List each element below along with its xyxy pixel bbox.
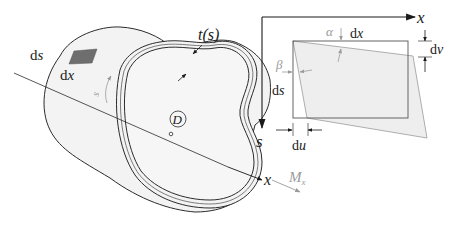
du-label: du <box>292 138 306 153</box>
top-dx-label: dx <box>350 26 364 41</box>
element-detail-group: x s dx α dv β ds du <box>256 8 444 153</box>
beta-label: β <box>275 57 283 72</box>
center-point <box>169 132 173 136</box>
tube-axis-x-label: x <box>263 171 271 188</box>
ds-label: ds <box>272 83 285 98</box>
element-ds-label: ds <box>30 47 44 63</box>
alpha-label: α <box>326 24 334 39</box>
detail-x-label: x <box>416 8 425 27</box>
thickness-label: t(s) <box>198 26 219 44</box>
dv-label: dv <box>430 42 444 57</box>
center-D-label: D <box>172 112 183 127</box>
moment-label: Mx <box>288 169 306 187</box>
detail-s-label: s <box>256 132 263 151</box>
element-dx-label: dx <box>60 67 75 83</box>
deformed-element <box>293 41 427 138</box>
torsion-diagram: ds dx s t(s) x Mx D x s d <box>0 0 456 227</box>
